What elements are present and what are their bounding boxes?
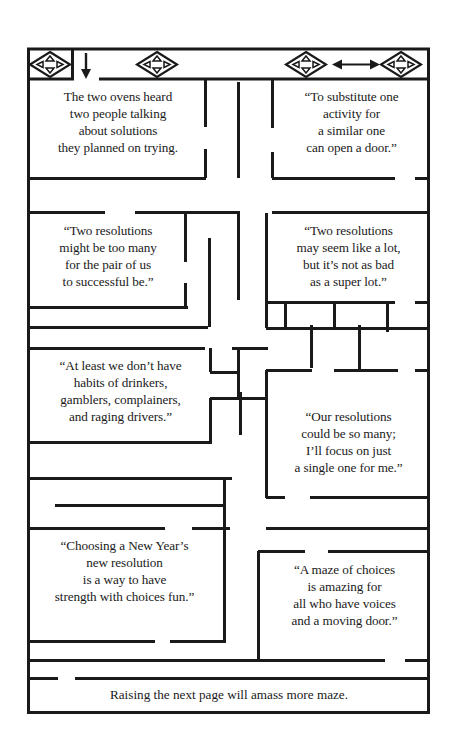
cell-choosing-line-4: strength with choices fun.” <box>25 588 224 605</box>
cell-oven-line-3: about solutions <box>30 122 206 139</box>
cell-substitute-line-1: “To substitute one <box>274 88 429 105</box>
cell-maze-line-3: all who have voices <box>260 595 429 612</box>
left-right-arrow-icon <box>332 60 380 70</box>
cell-our-line-1: “Our resolutions <box>268 408 429 425</box>
cell-two-resolutions-many: “Two resolutions might be too many for t… <box>30 222 186 291</box>
move-diamond-icon-top-right-right[interactable] <box>381 52 421 77</box>
cell-at-least-line-4: and raging drivers.” <box>30 408 211 425</box>
cell-choosing-line-3: is a way to have <box>25 571 224 588</box>
cell-choosing-line-2: new resolution <box>25 554 224 571</box>
cell-many-line-4: to successful be.” <box>30 273 186 290</box>
cell-lot-line-3: but it’s not as bad <box>268 256 429 273</box>
cell-maze-line-1: “A maze of choices <box>260 561 429 578</box>
cell-many-line-3: for the pair of us <box>30 256 186 273</box>
cell-our-line-3: I’ll focus on just <box>268 442 429 459</box>
cell-oven: The two ovens heard two people talking a… <box>30 88 206 157</box>
cell-maze-of-choices: “A maze of choices is amazing for all wh… <box>260 561 429 630</box>
maze-page: The two ovens heard two people talking a… <box>0 0 455 754</box>
cell-many-line-1: “Two resolutions <box>30 222 186 239</box>
down-arrow-icon <box>81 53 91 79</box>
cell-at-least-line-2: habits of drinkers, <box>30 374 211 391</box>
cell-maze-line-2: is amazing for <box>260 578 429 595</box>
cell-our-resolutions: “Our resolutions could be so many; I’ll … <box>268 408 429 477</box>
cell-oven-line-4: they planned on trying. <box>30 139 206 156</box>
footer-caption: Raising the next page will amass more ma… <box>29 687 429 703</box>
cell-oven-line-1: The two ovens heard <box>30 88 206 105</box>
cell-at-least: “At least we don’t have habits of drinke… <box>30 357 211 426</box>
cell-maze-line-4: and a moving door.” <box>260 612 429 629</box>
cell-substitute-line-4: can open a door.” <box>274 139 429 156</box>
move-diamond-icon-top-right-left[interactable] <box>286 52 326 77</box>
cell-at-least-line-3: gamblers, complainers, <box>30 391 211 408</box>
cell-oven-line-2: two people talking <box>30 105 206 122</box>
cell-our-line-2: could be so many; <box>268 425 429 442</box>
cell-lot-line-1: “Two resolutions <box>268 222 429 239</box>
cell-many-line-2: might be too many <box>30 239 186 256</box>
cell-substitute-line-3: a similar one <box>274 122 429 139</box>
cell-at-least-line-1: “At least we don’t have <box>30 357 211 374</box>
cell-substitute-line-2: activity for <box>274 105 429 122</box>
move-diamond-icon-top-middle[interactable] <box>137 52 177 77</box>
move-diamond-icon-entrance[interactable] <box>30 52 70 77</box>
cell-our-line-4: a single one for me.” <box>268 459 429 476</box>
cell-lot-line-2: may seem like a lot, <box>268 239 429 256</box>
cell-lot-line-4: as a super lot.” <box>268 273 429 290</box>
cell-choosing-line-1: “Choosing a New Year’s <box>25 537 224 554</box>
cell-two-resolutions-lot: “Two resolutions may seem like a lot, bu… <box>268 222 429 291</box>
cell-choosing: “Choosing a New Year’s new resolution is… <box>25 537 224 606</box>
cell-substitute: “To substitute one activity for a simila… <box>274 88 429 157</box>
